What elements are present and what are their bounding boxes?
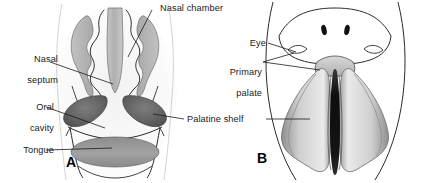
label-primary-palate-line1: Primary xyxy=(230,67,262,77)
label-tongue: Tongue xyxy=(0,145,54,156)
label-oral-cavity-line1: Oral xyxy=(36,102,54,112)
panel-b-median-cleft xyxy=(330,69,340,175)
tongue-shape xyxy=(71,137,159,167)
panel-b-palatine-shelf-left xyxy=(281,69,331,172)
label-oral-cavity: Oral cavity xyxy=(0,91,54,144)
panel-b-drawing xyxy=(263,2,405,180)
figure-container: Nasal chamber Nasal septum Oral cavity T… xyxy=(0,0,428,183)
label-nasal-septum-line2: septum xyxy=(27,75,58,85)
leader-primary-palate-branch xyxy=(263,53,294,62)
label-oral-cavity-line2: cavity xyxy=(30,123,54,133)
label-palatine-shelf: Palatine shelf xyxy=(187,114,244,125)
panel-b-snout-arch xyxy=(279,8,391,36)
nostril-left xyxy=(320,24,327,35)
eye-right xyxy=(364,45,383,53)
eye-left xyxy=(288,45,307,53)
panel-letter-a: A xyxy=(66,154,76,170)
label-primary-palate: Primary palate xyxy=(206,56,262,109)
label-eye: Eye xyxy=(224,38,266,49)
nostril-right xyxy=(343,24,350,35)
panel-b-palatine-shelf-right xyxy=(339,69,389,172)
label-nasal-septum: Nasal septum xyxy=(0,43,58,96)
label-nasal-septum-line1: Nasal xyxy=(34,54,58,64)
panel-letter-b: B xyxy=(257,150,267,166)
label-nasal-chamber: Nasal chamber xyxy=(160,3,223,14)
label-primary-palate-line2: palate xyxy=(236,88,262,98)
